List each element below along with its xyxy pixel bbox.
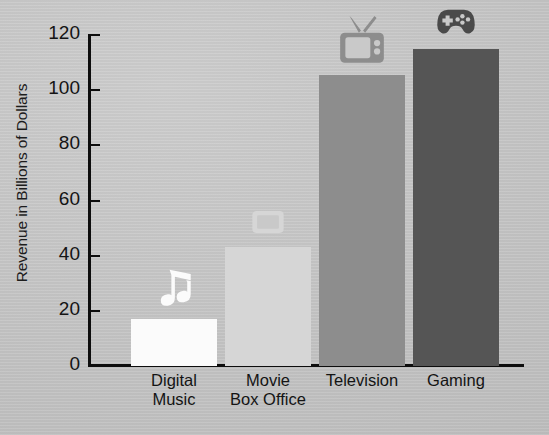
- y-axis-tick-label: 100: [24, 77, 80, 99]
- y-axis-tick-label: 40: [24, 243, 80, 265]
- game-controller-icon: [431, 1, 481, 45]
- plot-area: [91, 35, 524, 366]
- bar-group[interactable]: [225, 35, 311, 366]
- bar-group[interactable]: [413, 35, 499, 366]
- portable-screen-icon: [247, 205, 289, 243]
- bar-group[interactable]: [319, 35, 405, 366]
- bar[interactable]: [131, 319, 217, 366]
- bar-chart-figure: Revenue in Billions of Dollars 020406080…: [0, 0, 549, 435]
- bar[interactable]: [225, 247, 311, 366]
- y-axis-tick-label: 20: [24, 298, 80, 320]
- y-axis-tick-label: 60: [24, 188, 80, 210]
- bar[interactable]: [319, 75, 405, 366]
- y-axis-tick-label: 80: [24, 132, 80, 154]
- bar[interactable]: [413, 49, 499, 366]
- bar-group[interactable]: [131, 35, 217, 366]
- y-axis-tick-label: 120: [24, 22, 80, 44]
- retro-television-icon: [336, 15, 388, 71]
- y-axis-tick-label: 0: [24, 353, 80, 375]
- music-note-icon: [150, 267, 198, 315]
- x-axis-tick-label: Gaming: [399, 371, 513, 390]
